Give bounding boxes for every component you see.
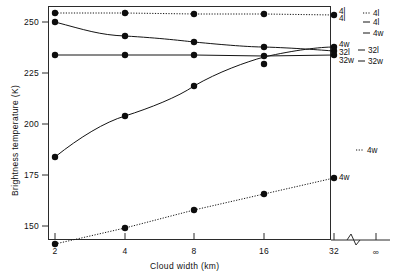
y-tick-label-225: 225	[24, 68, 39, 78]
data-point	[52, 19, 58, 25]
x-axis-tick-labels: 2 4 8 16 32 ∞	[52, 246, 379, 257]
chart-root: 250 225 200 175 150 2 4 8 16 32 ∞	[0, 0, 396, 271]
x-tick-label-8: 8	[191, 246, 196, 256]
y-tick-label-175: 175	[24, 170, 39, 180]
x-axis-title: Cloud width (km)	[150, 261, 219, 271]
x-tick-label-16: 16	[259, 246, 269, 256]
legend-label-32l: 32l	[368, 46, 379, 55]
y-tick-label-200: 200	[24, 119, 39, 129]
legend-label-4l-solid: 4l	[373, 18, 380, 27]
data-point	[331, 175, 337, 181]
end-label-4w-low: 4w	[339, 173, 350, 182]
data-point	[191, 83, 197, 89]
data-point	[191, 11, 197, 17]
legend-key-group: 4l 4l 4w 32l 32w 4w	[356, 9, 384, 155]
data-point	[261, 191, 267, 197]
legend-label-4w-dotted: 4w	[367, 146, 378, 155]
series-4w-solid	[52, 44, 337, 160]
data-point	[52, 154, 58, 160]
data-point	[122, 113, 128, 119]
data-point	[331, 12, 337, 18]
inline-end-labels: 4l 4l 4w 32l 32w 4w	[339, 7, 354, 182]
data-point	[261, 61, 267, 67]
data-point	[331, 44, 337, 50]
end-label-4l-b: 4l	[339, 14, 346, 23]
end-label-32w: 32w	[339, 56, 354, 65]
series-4w-solid-line	[55, 47, 334, 157]
data-point	[191, 52, 197, 58]
data-point	[331, 52, 337, 58]
x-tick-label-32: 32	[329, 246, 339, 256]
y-tick-label-150: 150	[24, 221, 39, 231]
data-point	[122, 52, 128, 58]
x-tick-label-2: 2	[52, 246, 57, 256]
data-point	[52, 52, 58, 58]
series-32l-solid	[52, 52, 337, 59]
x-axis-ticks	[55, 233, 390, 245]
data-point	[261, 11, 267, 17]
data-point	[122, 33, 128, 39]
chart-svg: 250 225 200 175 150 2 4 8 16 32 ∞	[0, 0, 396, 271]
series-4l-solid	[52, 19, 337, 54]
x-tick-label-4: 4	[122, 246, 127, 256]
data-point	[52, 10, 58, 16]
legend-label-32w: 32w	[368, 57, 383, 66]
y-axis-ticks	[42, 22, 48, 226]
data-point	[122, 10, 128, 16]
series-4l-solid-line	[55, 22, 334, 51]
data-point	[261, 44, 267, 50]
data-point	[191, 207, 197, 213]
data-point	[52, 241, 58, 247]
legend-label-4l-dotted: 4l	[373, 9, 380, 18]
y-tick-label-250: 250	[24, 17, 39, 27]
legend-label-4w-solid: 4w	[373, 29, 384, 38]
y-axis-title: Brightness temperature (K)	[10, 85, 20, 196]
data-point	[191, 39, 197, 45]
series-4l-dotted	[52, 10, 337, 18]
data-point	[122, 225, 128, 231]
x-tick-label-infinity: ∞	[373, 247, 379, 257]
y-axis-tick-labels: 250 225 200 175 150	[24, 17, 39, 231]
